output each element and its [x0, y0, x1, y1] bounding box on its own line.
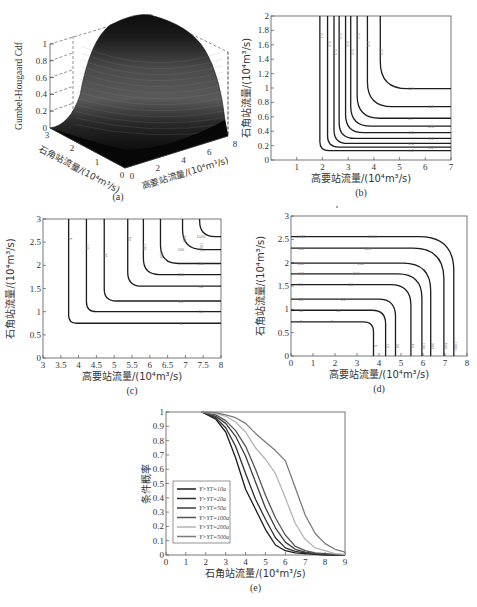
x-tick-label: 0 [130, 171, 135, 181]
contour-label: 10 [336, 308, 341, 313]
z-gridline [50, 70, 73, 78]
x-tick-label: 5 [263, 557, 268, 567]
y-tick-label: 2.5 [30, 237, 42, 247]
contour-label: 0.9 [408, 86, 414, 91]
panel-caption: (b) [355, 187, 367, 199]
contour-label: 0.4 [338, 33, 343, 39]
y-tick-label: 3 [285, 211, 290, 221]
surface [50, 14, 228, 168]
y-tick-label: 2.5 [278, 234, 290, 244]
y-tick-label: 0 [285, 351, 290, 361]
contour-label: 0.7 [356, 33, 361, 39]
x-tick-label: 0 [164, 557, 169, 567]
x-tick-label: 5 [112, 360, 117, 370]
y-tick-label: 0.9 [153, 421, 165, 431]
legend-label: Y>YT=10a [199, 486, 226, 492]
y-tick-label: 0.6 [258, 112, 270, 122]
y-tick-label: 2 [70, 143, 75, 153]
contour-label: 10 [85, 245, 90, 250]
contour-label: 100 [178, 272, 185, 277]
stray-dot [336, 206, 338, 208]
x-tick-label: 3 [223, 557, 228, 567]
contour-line [291, 285, 411, 356]
y-tick-label: 0.2 [258, 141, 269, 151]
y-tick-label: 0.8 [153, 436, 165, 446]
contour-label: 1000 [453, 342, 458, 352]
contour-label: 20 [341, 297, 346, 302]
contour-label: 500 [298, 246, 305, 251]
panel-e-line-chart: 012345678900.10.20.30.40.50.60.70.80.91石… [140, 407, 348, 594]
x-tick-label: 4 [243, 557, 248, 567]
z-gridline [50, 103, 73, 111]
x-tick-label: 2 [156, 163, 161, 173]
contour-line [380, 16, 451, 89]
contour-label: 20 [299, 297, 304, 302]
contour-label: 0.9 [379, 49, 384, 55]
x-tick-label: 7 [303, 557, 308, 567]
z-tick-label: 0.8 [36, 56, 48, 66]
x-tick-label: 3 [41, 360, 46, 370]
contour-line [357, 16, 451, 118]
legend-label: Y>YT=500a [199, 534, 229, 540]
contour-line [291, 322, 374, 356]
x-tick-label: 2 [204, 557, 209, 567]
y-tick-label: 0.6 [153, 464, 165, 474]
y-tick-label: 1.5 [30, 284, 42, 294]
contour-label: 50 [299, 282, 304, 287]
y-tick-label: 0.5 [153, 479, 165, 489]
y-tick-label: 0.5 [30, 330, 42, 340]
y-tick-label: 0.1 [153, 536, 164, 546]
contour-label: 200 [298, 261, 305, 266]
z-gridline [50, 53, 73, 61]
x-tick-label: 3 [346, 162, 351, 172]
legend: Y>YT=10aY>YT=20aY>YT=50aY>YT=100aY>YT=20… [173, 481, 230, 543]
contour-label: 0.3 [333, 49, 338, 55]
x-tick-label: 6 [283, 557, 288, 567]
x-tick-label: 6 [207, 147, 212, 157]
contour-label: 10 [199, 309, 204, 314]
x-tick-label: 2 [320, 162, 325, 172]
contour-label: 200 [198, 261, 205, 266]
x-tick-label: 6 [423, 162, 428, 172]
contour-label: 0.4 [428, 136, 434, 141]
contour-label: 20 [395, 344, 400, 349]
y-tick-label: 0.4 [258, 126, 270, 136]
legend-label: Y>YT=100a [199, 515, 229, 521]
contour-line [291, 263, 431, 356]
contour-label: 200 [358, 261, 365, 266]
contour-label: 0.8 [366, 41, 371, 47]
y-tick-label: 1.2 [258, 69, 269, 79]
y-tick-label: 1 [160, 407, 165, 417]
y-tick-label: 0.7 [153, 450, 165, 460]
contour-line [339, 16, 451, 138]
contour-label: 20 [103, 253, 108, 258]
contour-label: 0.3 [408, 141, 414, 146]
contour-label: 100 [353, 271, 360, 276]
y-tick-label: 0 [37, 353, 42, 363]
y-tick-label: 3 [45, 130, 50, 140]
contour-label: 0.1 [408, 148, 414, 153]
y-tick-label: 1 [37, 307, 42, 317]
x-tick-label: 7.5 [198, 360, 210, 370]
y-tick-label: 0 [160, 550, 165, 560]
contour-label: 1000 [199, 243, 204, 253]
contour-label: 50 [199, 284, 204, 289]
y-tick-label: 0.5 [278, 328, 290, 338]
x-tick-label: 5.5 [126, 360, 138, 370]
contour-label: 100 [142, 244, 147, 251]
x-tick-label: 4 [372, 162, 377, 172]
contour-label: 10 [385, 344, 390, 349]
contour-label: 0.7 [408, 116, 414, 121]
x-tick-label: 6 [148, 360, 153, 370]
contour-line [291, 299, 396, 356]
x-axis-label: 高要站流量/(10⁴m³/s) [311, 172, 411, 184]
panel-c-contour: 33.544.555.566.577.5800.511.522.53高要站流量/… [4, 214, 224, 397]
contour-label: 0.1 [319, 33, 324, 39]
panel-b-contour: 123456700.20.40.60.811.21.41.61.82高要站流量/… [240, 11, 454, 199]
contour-line [291, 274, 422, 356]
y-tick-label: 2 [265, 11, 270, 21]
x-tick-label: 1 [294, 162, 299, 172]
panel-caption: (c) [126, 385, 137, 397]
x-tick-label: 2 [333, 358, 338, 368]
contour-label: 10 [299, 308, 304, 313]
